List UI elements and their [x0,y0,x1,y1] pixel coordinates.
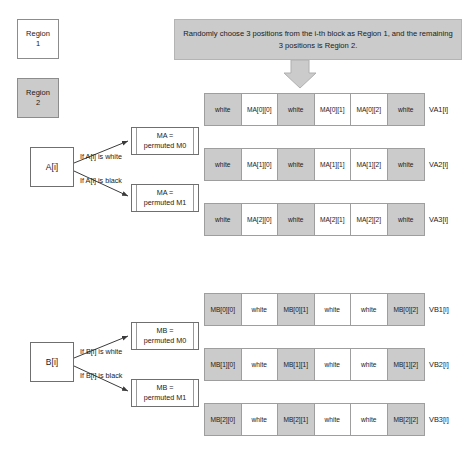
block-cell: white [315,404,352,435]
block-cell: MA[1][0] [242,149,279,180]
condition-b-black: If B[i] is black [80,371,122,380]
block-cell: MB[0][0] [205,294,242,325]
block-cell: white [388,149,425,180]
block-row-label: VA3[i] [429,215,448,224]
block-row-label: VB2[i] [429,360,449,369]
block-cell: white [242,404,279,435]
proc-edge-right [193,323,194,349]
block-cell: MA[2][0] [242,204,279,235]
block-cell: MA[1][2] [351,149,388,180]
block-cell: MB[0][1] [278,294,315,325]
block-row: whiteMA[0][0]whiteMA[0][1]MA[0][2]white [204,93,425,126]
proc-edge-right [193,128,194,154]
proc-edge-left [136,380,137,406]
block-cell: MA[1][1] [315,149,352,180]
legend-region-1: Region 1 [17,19,59,59]
target-a-black-line1: MA = [157,188,174,197]
block-cell: white [205,149,242,180]
block-row-label: VB3[i] [429,415,449,424]
block-row: MB[2][0]whiteMB[2][1]whitewhiteMB[2][2] [204,403,425,436]
target-b-black-line2: permuted M1 [144,393,186,402]
block-cell: white [278,94,315,125]
target-b-white-line2: permuted M0 [144,336,186,345]
source-box-a-label: A[i] [46,162,58,172]
block-row: MB[1][0]whiteMB[1][1]whitewhiteMB[1][2] [204,348,425,381]
block-cell: white [388,204,425,235]
target-a-white-line2: permuted M0 [144,141,186,150]
target-a-white-line1: MA = [157,131,174,140]
source-box-a: A[i] [30,147,74,187]
legend-region-2-line1: Region [26,88,50,98]
block-row-label: VA1[i] [429,105,448,114]
target-box-a-white: MA = permuted M0 [131,127,199,155]
block-cell: white [278,204,315,235]
block-cell: MA[2][1] [315,204,352,235]
condition-b-white: If B[i] is white [80,347,122,356]
proc-edge-left [136,323,137,349]
block-cell: white [388,94,425,125]
block-cell: white [351,404,388,435]
block-cell: white [351,349,388,380]
block-cell: MA[0][2] [351,94,388,125]
block-cell: white [351,294,388,325]
block-cell: white [315,294,352,325]
block-cell: MB[2][1] [278,404,315,435]
condition-a-white: If A[i] is white [80,152,122,161]
block-cell: white [205,94,242,125]
source-box-b: B[i] [30,342,74,382]
legend-region-1-line1: Region [26,29,50,39]
block-cell: MA[2][2] [351,204,388,235]
proc-edge-left [136,128,137,154]
block-cell: MB[1][2] [388,349,425,380]
target-b-black-line1: MB = [157,383,174,392]
block-cell: white [205,204,242,235]
legend-region-2: Region 2 [17,78,59,118]
legend-region-2-line2: 2 [36,98,40,108]
block-cell: MB[0][2] [388,294,425,325]
caption-text: Randomly choose 3 positions from the i-t… [183,28,453,52]
down-block-arrow [284,60,316,88]
condition-a-black: If A[i] is black [80,176,122,185]
block-cell: MB[1][1] [278,349,315,380]
block-cell: white [278,149,315,180]
target-box-b-white: MB = permuted M0 [131,322,199,350]
block-row-label: VA2[i] [429,160,448,169]
block-cell: MA[0][1] [315,94,352,125]
block-cell: white [242,294,279,325]
diagram-canvas: Region 1 Region 2 Randomly choose 3 posi… [0,0,470,460]
proc-edge-right [193,185,194,211]
target-b-white-line1: MB = [157,326,174,335]
block-cell: white [315,349,352,380]
block-cell: MA[0][0] [242,94,279,125]
block-row: whiteMA[2][0]whiteMA[2][1]MA[2][2]white [204,203,425,236]
source-box-b-label: B[i] [46,357,58,367]
block-row: MB[0][0]whiteMB[0][1]whitewhiteMB[0][2] [204,293,425,326]
block-row-label: VB1[i] [429,305,449,314]
target-box-b-black: MB = permuted M1 [131,379,199,407]
target-box-a-black: MA = permuted M1 [131,184,199,212]
block-cell: white [242,349,279,380]
block-cell: MB[1][0] [205,349,242,380]
caption-box: Randomly choose 3 positions from the i-t… [174,19,462,60]
legend-region-1-line2: 1 [36,39,40,49]
proc-edge-right [193,380,194,406]
block-cell: MB[2][0] [205,404,242,435]
block-cell: MB[2][2] [388,404,425,435]
proc-edge-left [136,185,137,211]
target-a-black-line2: permuted M1 [144,198,186,207]
block-row: whiteMA[1][0]whiteMA[1][1]MA[1][2]white [204,148,425,181]
